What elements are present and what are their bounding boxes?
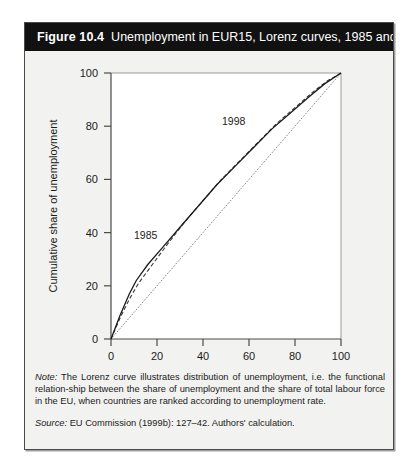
figure-title: Unemployment in EUR15, Lorenz curves, 19…: [111, 30, 393, 44]
y-tick-label-20: 20: [86, 280, 98, 292]
figure-container: Figure 10.4 Unemployment in EUR15, Loren…: [24, 22, 394, 450]
y-tick-label-0: 0: [92, 333, 98, 345]
chart-panel: 0 20 40 60 80 100 0 20 40 60 8: [31, 57, 388, 367]
x-tick-label-100: 100: [332, 350, 350, 362]
y-tick-label-40: 40: [86, 227, 98, 239]
source-label: Source:: [35, 418, 67, 428]
y-tick-label-80: 80: [86, 120, 98, 132]
note-label: Note:: [35, 372, 57, 382]
annotation-1985: 1985: [134, 229, 158, 241]
x-tick-label-40: 40: [197, 350, 209, 362]
figure-title-bar: Figure 10.4 Unemployment in EUR15, Loren…: [25, 23, 393, 51]
x-tick-label-60: 60: [243, 350, 255, 362]
figure-note: Note: The Lorenz curve illustrates distr…: [35, 371, 385, 408]
x-tick-label-80: 80: [289, 350, 301, 362]
annotation-1998: 1998: [222, 115, 246, 127]
figure-footnotes: Note: The Lorenz curve illustrates distr…: [35, 371, 385, 429]
source-text: EU Commission (1999b): 127–42. Authors' …: [67, 418, 295, 428]
lorenz-curve-chart: 0 20 40 60 80 100 0 20 40 60 8: [31, 57, 388, 367]
y-tick-label-60: 60: [86, 173, 98, 185]
figure-source: Source: EU Commission (1999b): 127–42. A…: [35, 417, 385, 429]
note-text: The Lorenz curve illustrates distributio…: [35, 372, 385, 406]
y-axis-title: Cumulative share of unemployment: [47, 119, 59, 292]
y-tick-label-100: 100: [80, 67, 98, 79]
figure-number: Figure 10.4: [37, 30, 104, 44]
x-tick-label-20: 20: [151, 350, 163, 362]
x-tick-label-0: 0: [108, 350, 114, 362]
